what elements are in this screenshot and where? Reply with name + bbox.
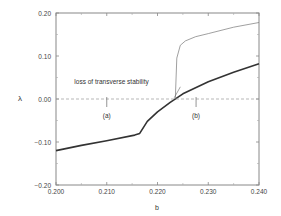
x-axis-label: b xyxy=(155,204,159,211)
lyapunov-exponent-chart: 0.200.100.00−0.10−0.20 0.2000.2100.2200.… xyxy=(0,0,281,216)
y-axis-label: λ xyxy=(18,94,22,103)
y-tick-label: −0.10 xyxy=(35,139,52,146)
x-tick-label: 0.230 xyxy=(200,188,217,195)
transverse-exponent-line xyxy=(175,23,259,100)
y-tick-label: 0.00 xyxy=(38,96,51,103)
data-series xyxy=(56,23,259,151)
region-label: (a) xyxy=(103,112,111,120)
x-tick-label: 0.220 xyxy=(149,188,166,195)
x-tick-label: 0.240 xyxy=(251,188,268,195)
main-exponent-line xyxy=(56,64,259,151)
y-tick-label: 0.20 xyxy=(38,10,51,17)
x-tick-labels: 0.2000.2100.2200.2300.240 xyxy=(48,188,268,195)
annotation-loss-of-stability: loss of transverse stability xyxy=(74,78,149,86)
y-tick-label: 0.10 xyxy=(38,53,51,60)
region-label: (b) xyxy=(192,112,200,120)
y-tick-labels: 0.200.100.00−0.10−0.20 xyxy=(35,10,52,189)
x-tick-label: 0.210 xyxy=(99,188,116,195)
x-tick-label: 0.200 xyxy=(48,188,65,195)
